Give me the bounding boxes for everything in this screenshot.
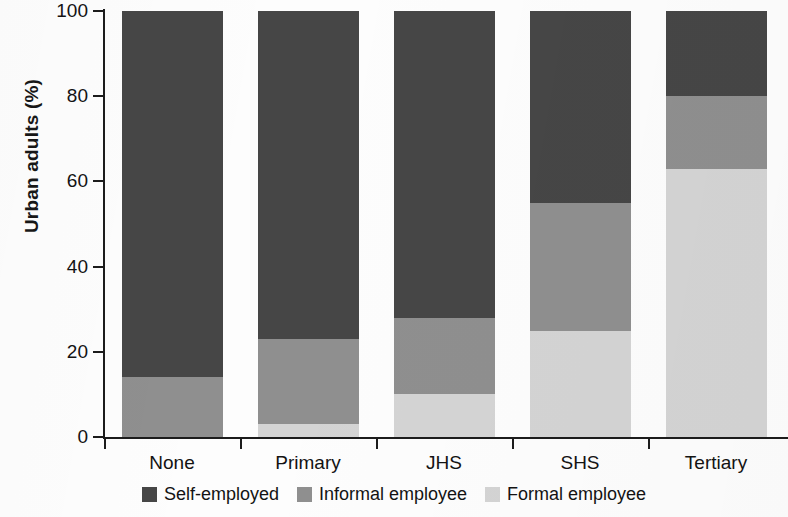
bar-segment[interactable] [666, 96, 767, 168]
bar-shs[interactable] [530, 11, 631, 437]
bar-tertiary[interactable] [666, 11, 767, 437]
bar-segment[interactable] [122, 377, 223, 437]
x-axis-tick [104, 438, 106, 449]
chart-legend: Self-employedInformal employeeFormal emp… [0, 484, 788, 505]
y-axis-tick-label: 60 [2, 170, 88, 192]
y-axis-tick-label: 80 [2, 85, 88, 107]
bar-segment[interactable] [394, 318, 495, 395]
y-axis-tick-label: 0 [2, 426, 88, 448]
legend-label: Informal employee [319, 484, 467, 505]
x-axis-tick [376, 438, 378, 449]
x-axis-tick [512, 438, 514, 449]
plot-area [104, 11, 784, 437]
bar-segment[interactable] [530, 331, 631, 438]
x-axis-tick [648, 438, 650, 449]
legend-label: Self-employed [164, 484, 279, 505]
bar-segment[interactable] [258, 424, 359, 437]
legend-swatch-icon [297, 487, 312, 502]
legend-item[interactable]: Informal employee [297, 484, 467, 505]
x-axis-line [103, 437, 788, 439]
legend-item[interactable]: Self-employed [142, 484, 279, 505]
legend-swatch-icon [485, 487, 500, 502]
bar-segment[interactable] [394, 11, 495, 318]
y-axis-title: Urban adults (%) [21, 46, 43, 266]
bar-none[interactable] [122, 11, 223, 437]
bar-segment[interactable] [530, 11, 631, 203]
legend-label: Formal employee [507, 484, 646, 505]
bar-segment[interactable] [122, 11, 223, 377]
bar-segment[interactable] [666, 169, 767, 437]
bar-jhs[interactable] [394, 11, 495, 437]
bar-segment[interactable] [394, 394, 495, 437]
x-axis-label-tertiary: Tertiary [636, 452, 788, 474]
bar-primary[interactable] [258, 11, 359, 437]
stacked-bar-chart: Urban adults (%) 020406080100 NonePrimar… [0, 0, 788, 517]
bar-segment[interactable] [666, 11, 767, 96]
bar-segment[interactable] [530, 203, 631, 331]
y-axis-tick-label: 20 [2, 341, 88, 363]
x-axis-tick [240, 438, 242, 449]
y-axis-tick-label: 100 [2, 0, 88, 22]
legend-item[interactable]: Formal employee [485, 484, 646, 505]
y-axis-tick-label: 40 [2, 256, 88, 278]
bar-segment[interactable] [258, 339, 359, 424]
bar-segment[interactable] [258, 11, 359, 339]
legend-swatch-icon [142, 487, 157, 502]
